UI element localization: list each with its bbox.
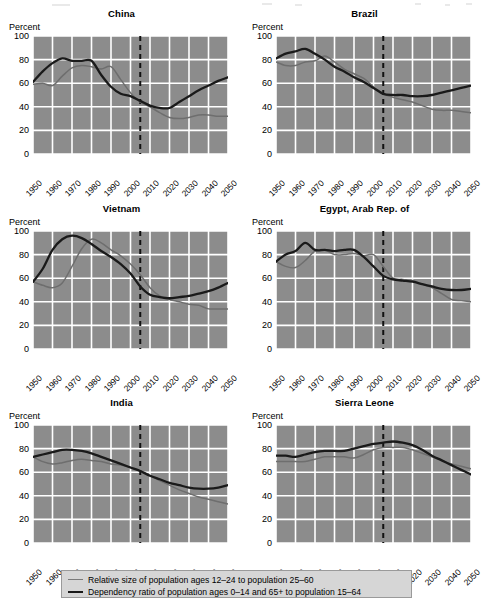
panel-title-brazil: Brazil (243, 8, 486, 19)
y-tick-label: 20 (262, 514, 272, 524)
legend-swatch-light-line (68, 579, 83, 580)
panel-title-vietnam: Vietnam (0, 203, 243, 214)
y-tick-label: 40 (19, 102, 29, 112)
y-tick-label: 40 (19, 491, 29, 501)
legend-item-dependency-ratio: Dependency ratio of population ages 0–14… (68, 586, 405, 597)
y-tick-label: 60 (262, 273, 272, 283)
panel-title-india: India (0, 397, 243, 408)
plot-svg (33, 36, 228, 154)
panel-sierra-leone: Sierra LeonePercent020406080100195019601… (243, 389, 486, 584)
y-tick-label: 100 (14, 226, 29, 236)
y-tick-label: 40 (262, 297, 272, 307)
legend-label-relative-size: Relative size of population ages 12–24 t… (88, 575, 314, 585)
y-tick-label: 100 (257, 420, 272, 430)
legend-item-relative-size: Relative size of population ages 12–24 t… (68, 574, 405, 585)
y-tick-label: 20 (19, 125, 29, 135)
y-tick-label: 60 (19, 467, 29, 477)
y-tick-label: 100 (14, 420, 29, 430)
y-tick-label: 100 (14, 31, 29, 41)
y-tick-label: 80 (262, 250, 272, 260)
plot-svg (33, 425, 228, 543)
y-tick-label: 0 (24, 149, 29, 159)
y-tick-label: 60 (262, 78, 272, 88)
y-tick-label: 20 (262, 125, 272, 135)
y-tick-label: 20 (19, 514, 29, 524)
legend-label-dependency-ratio: Dependency ratio of population ages 0–14… (88, 587, 361, 597)
y-tick-label: 60 (262, 467, 272, 477)
plot-area-sierra-leone: 0204060801001950196019701980199020002010… (276, 425, 471, 543)
y-tick-label: 40 (262, 102, 272, 112)
panel-china: ChinaPercent0204060801001950196019701980… (0, 0, 243, 195)
y-tick-label: 100 (257, 226, 272, 236)
y-tick-label: 20 (262, 320, 272, 330)
y-tick-label: 0 (24, 538, 29, 548)
plot-area-vietnam: 0204060801001950196019701980199020002010… (33, 231, 228, 349)
plot-area-india: 0204060801001950196019701980199020002010… (33, 425, 228, 543)
panel-egypt: Egypt, Arab Rep. ofPercent02040608010019… (243, 195, 486, 390)
plot-area-china: 0204060801001950196019701980199020002010… (33, 36, 228, 154)
y-tick-label: 0 (267, 538, 272, 548)
y-tick-label: 20 (19, 320, 29, 330)
plot-svg (276, 425, 471, 543)
y-tick-label: 60 (19, 78, 29, 88)
legend: Relative size of population ages 12–24 t… (61, 570, 412, 598)
y-tick-label: 80 (19, 444, 29, 454)
plot-area-egypt: 0204060801001950196019701980199020002010… (276, 231, 471, 349)
y-tick-label: 60 (19, 273, 29, 283)
figure-panel-grid: ChinaPercent0204060801001950196019701980… (0, 0, 487, 612)
panel-india: IndiaPercent0204060801001950196019701980… (0, 389, 243, 584)
panel-title-egypt: Egypt, Arab Rep. of (243, 203, 486, 214)
x-tick-label: 2050 (475, 554, 487, 574)
legend-swatch-dark-line (68, 591, 83, 593)
y-tick-label: 100 (257, 31, 272, 41)
plot-svg (276, 231, 471, 349)
y-tick-label: 0 (267, 149, 272, 159)
y-tick-label: 0 (267, 344, 272, 354)
x-tick-label: 2050 (475, 360, 487, 380)
y-tick-label: 0 (24, 344, 29, 354)
y-tick-label: 80 (262, 55, 272, 65)
plot-svg (33, 231, 228, 349)
y-tick-label: 80 (262, 444, 272, 454)
panel-title-sierra-leone: Sierra Leone (243, 397, 486, 408)
y-tick-label: 40 (19, 297, 29, 307)
x-tick-label: 2050 (475, 165, 487, 185)
y-tick-label: 80 (19, 250, 29, 260)
y-tick-label: 80 (19, 55, 29, 65)
plot-svg (276, 36, 471, 154)
plot-area-brazil: 0204060801001950196019701980199020002010… (276, 36, 471, 154)
panel-brazil: BrazilPercent020406080100195019601970198… (243, 0, 486, 195)
y-tick-label: 40 (262, 491, 272, 501)
panel-vietnam: VietnamPercent02040608010019501960197019… (0, 195, 243, 390)
panel-title-china: China (0, 8, 243, 19)
